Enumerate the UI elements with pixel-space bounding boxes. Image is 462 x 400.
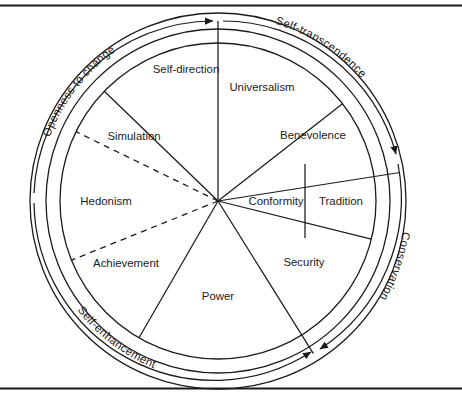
wedge-label-benevolence: Benevolence [280,129,346,141]
spoke-self-direction-simulation [104,91,218,201]
wedge-label-achievement: Achievement [93,257,160,269]
wedge-label-conformity: Conformity [248,195,303,207]
spoke-hedonism-simulation-dashed [76,132,218,201]
value-circumplex-diagram: Self-direction Universalism Benevolence … [0,0,462,400]
spoke-benevolence-conformity [218,173,400,202]
wedge-label-universalism: Universalism [229,81,294,93]
spoke-security-power [218,201,313,354]
figure-container: Self-direction Universalism Benevolence … [0,0,462,400]
dimension-label-conservation: Conservation [378,231,413,303]
spoke-achievement-hedonism-dashed [72,201,219,260]
arrow-arc-self-enhancement [34,203,311,380]
spoke-power-achievement [139,201,218,338]
wedge-label-tradition: Tradition [319,195,363,207]
wedge-label-hedonism: Hedonism [80,195,131,207]
wedge-label-simulation: Simulation [107,130,160,142]
wedge-label-power: Power [202,290,234,302]
dimension-label-self-transcendence: Self-transcendence [274,14,369,80]
wedge-label-security: Security [283,256,324,268]
spoke-universalism-benevolence [218,104,343,201]
wedge-label-self-direction: Self-direction [153,63,219,75]
